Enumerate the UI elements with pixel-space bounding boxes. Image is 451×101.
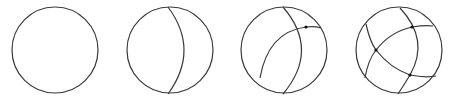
great-circle-arc-1 <box>398 8 418 94</box>
intersection-vertex <box>304 25 307 28</box>
sphere-outline <box>241 7 327 93</box>
great-circle-arc-1 <box>283 7 302 94</box>
sphere-panel-1 <box>12 7 98 93</box>
intersection-vertex <box>410 25 413 28</box>
sphere-panel-3 <box>241 7 327 94</box>
sphere-panel-4 <box>356 7 442 94</box>
intersection-vertex <box>408 73 411 76</box>
sphere-outline <box>127 7 213 93</box>
great-circle-arc-2 <box>260 27 321 78</box>
intersection-vertex <box>374 48 377 51</box>
sphere-subdivision-diagram <box>0 0 451 101</box>
sphere-outline <box>12 7 98 93</box>
sphere-panel-2 <box>127 7 213 94</box>
sphere-outline <box>356 7 442 93</box>
great-circle-arc-1 <box>168 7 184 94</box>
